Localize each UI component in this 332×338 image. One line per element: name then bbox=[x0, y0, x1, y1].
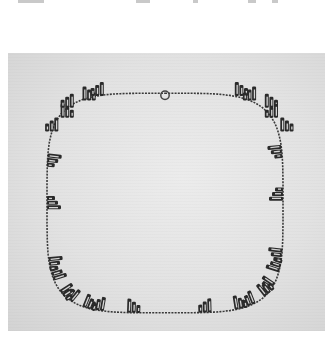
pendant-bar-highlight bbox=[276, 107, 277, 116]
pendant-bar-highlight bbox=[67, 100, 68, 106]
necklace-chain bbox=[47, 93, 283, 312]
pendant-bar-highlight bbox=[89, 93, 90, 99]
pendant-bar-highlight bbox=[62, 103, 63, 106]
text-fragment bbox=[193, 0, 198, 3]
pendant-bar-highlight bbox=[267, 97, 268, 106]
pendant bbox=[267, 145, 282, 159]
text-fragment bbox=[18, 0, 44, 3]
text-fragment bbox=[136, 0, 150, 3]
pendant bbox=[269, 188, 283, 201]
pendant bbox=[198, 298, 212, 312]
pendant-bar-highlight bbox=[92, 91, 93, 94]
pendant bbox=[60, 283, 79, 302]
pendant-bar-highlight bbox=[267, 113, 268, 116]
pendant bbox=[45, 118, 58, 132]
pendant-bar-highlight bbox=[272, 198, 281, 199]
pendant-bar-highlight bbox=[133, 305, 134, 311]
necklace-illustration bbox=[8, 53, 325, 331]
pendant-bar-highlight bbox=[275, 193, 281, 194]
spring-ring-clasp bbox=[161, 91, 169, 99]
pendant-bar-highlight bbox=[287, 124, 288, 130]
text-fragment bbox=[248, 0, 256, 3]
pendant-bar-highlight bbox=[278, 189, 281, 190]
pendant-bar-highlight bbox=[72, 113, 73, 116]
pendant-bar-highlight bbox=[138, 308, 139, 311]
pendant-bar-highlight bbox=[245, 96, 246, 99]
pendant-bar-highlight bbox=[204, 304, 205, 310]
pendant-bar-highlight bbox=[47, 127, 48, 130]
pendant-bar-highlight bbox=[97, 88, 98, 94]
pendant bbox=[280, 118, 293, 132]
pendant-bar-highlight bbox=[62, 107, 63, 116]
text-fragment bbox=[272, 0, 278, 3]
pendant-bar-highlight bbox=[49, 198, 52, 199]
pendant-bar-highlight bbox=[72, 97, 73, 106]
pendant-bar-highlight bbox=[51, 124, 52, 130]
pendant-bar-highlight bbox=[200, 308, 201, 311]
pendant-bar-highlight bbox=[102, 85, 103, 94]
pendant-bar-highlight bbox=[291, 127, 292, 130]
pendant bbox=[48, 256, 63, 270]
pendant-bar-highlight bbox=[209, 301, 211, 310]
pendant-bar-highlight bbox=[254, 90, 255, 99]
cropped-text-fragments bbox=[0, 0, 332, 8]
pendant bbox=[91, 82, 104, 96]
pendant-bar-highlight bbox=[84, 90, 85, 99]
pendant bbox=[47, 196, 61, 209]
pendant-bar-highlight bbox=[271, 110, 272, 116]
pendant-bar-highlight bbox=[56, 121, 57, 130]
pendant-bar-highlight bbox=[49, 207, 58, 208]
pendant-bar-highlight bbox=[93, 96, 94, 99]
pendant-bar-highlight bbox=[282, 121, 283, 130]
pendant bbox=[47, 153, 62, 168]
pendant-bar-highlight bbox=[67, 110, 68, 116]
pendant-bar-highlight bbox=[237, 85, 238, 94]
pendant bbox=[61, 94, 74, 108]
pendant bbox=[127, 299, 141, 313]
pendant-bar-highlight bbox=[241, 88, 242, 94]
pendant-bar-highlight bbox=[249, 93, 250, 99]
pendant-bar-highlight bbox=[271, 100, 272, 106]
necklace-photograph: Black-and-white photograph of a necklace… bbox=[8, 53, 325, 331]
pendant-bar-highlight bbox=[49, 202, 55, 203]
